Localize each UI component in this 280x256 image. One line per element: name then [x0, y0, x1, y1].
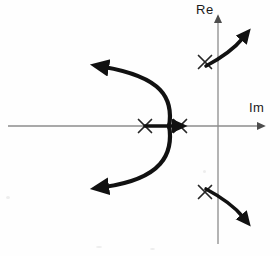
- root-locus-plot: [0, 0, 280, 256]
- axis-label-re: Re: [196, 2, 214, 17]
- locus-branch-parabola-lower: [104, 125, 170, 187]
- locus-branches-group: [104, 38, 243, 217]
- scan-artifact: [150, 248, 155, 250]
- locus-branch-parabola-upper: [104, 67, 170, 127]
- scan-artifact: [203, 170, 206, 173]
- scan-artifact: [96, 246, 102, 248]
- locus-branch-lower-right: [206, 189, 243, 217]
- root-locus-figure: Re Im: [0, 0, 280, 256]
- scan-artifact: [6, 196, 10, 199]
- locus-branch-upper-right: [206, 38, 243, 66]
- axis-label-im: Im: [249, 100, 264, 115]
